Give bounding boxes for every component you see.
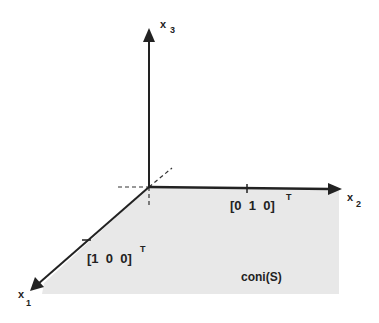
vector-e2-label: [0 1 0] [230, 198, 275, 213]
vector-e2-transpose: T [286, 192, 292, 202]
x3-axis [143, 28, 155, 187]
x3-subscript: 3 [170, 25, 175, 35]
x1-arrowhead-icon [30, 277, 44, 291]
diagram-canvas: x 3 x 2 x 1 [0 1 0] T [1 0 0] T coni(S) [0, 0, 379, 323]
x1-subscript: 1 [26, 298, 31, 308]
vector-e1-transpose: T [140, 244, 146, 254]
x3-arrowhead-icon [143, 28, 155, 42]
vector-e1-label: [1 0 0] [87, 251, 132, 266]
x3-label: x [160, 18, 167, 30]
x2-label: x [347, 191, 354, 203]
x2-subscript: 2 [356, 199, 361, 209]
cone-region-label: coni(S) [241, 270, 282, 284]
x1-label: x [18, 288, 25, 300]
